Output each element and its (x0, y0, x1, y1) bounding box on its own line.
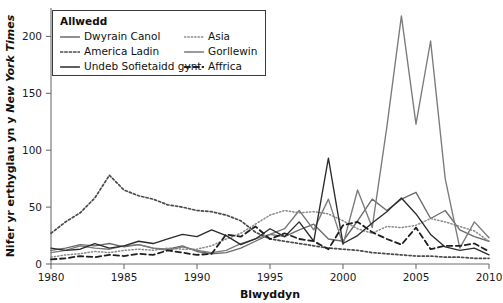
y-tick-label: 150 (22, 87, 42, 99)
x-tick-label: 1995 (257, 271, 284, 283)
legend-line-swatch (184, 62, 204, 72)
legend-entry[interactable]: Asia (184, 31, 258, 42)
y-tick-label: 0 (35, 258, 42, 270)
y-tick-label: 200 (22, 30, 42, 42)
legend-entry-label: Asia (208, 31, 230, 42)
legend-line-swatch (60, 32, 80, 42)
y-axis-title: Nifer yr erthyglau yn y New York Times (4, 14, 17, 257)
legend-title: Allwedd (60, 15, 258, 27)
legend-entry[interactable]: America Ladin (60, 46, 184, 57)
legend-line-swatch (60, 62, 80, 72)
legend-entry[interactable]: Dwyrain Canol (60, 31, 184, 42)
x-tick-label: 2010 (476, 271, 503, 283)
legend-entry-label: Affrica (208, 61, 242, 72)
legend-entry-label: Gorllewin (208, 46, 257, 57)
x-tick-label: 2000 (330, 271, 357, 283)
legend-entry[interactable]: Gorllewin (184, 46, 258, 57)
chart-legend: Allwedd Dwyrain CanolAsiaAmerica LadinGo… (52, 10, 266, 76)
legend-entry-label: America Ladin (84, 46, 159, 57)
x-tick-label: 1985 (111, 271, 138, 283)
line-chart: 0501001502001980198519901995200020052010… (0, 0, 503, 303)
legend-entry[interactable]: Affrica (184, 61, 258, 72)
legend-entry[interactable]: Undeb Sofietaidd gynt (60, 61, 184, 72)
legend-entry-label: Dwyrain Canol (84, 31, 160, 42)
x-tick-label: 2005 (403, 271, 430, 283)
legend-entries: Dwyrain CanolAsiaAmerica LadinGorllewinU… (60, 29, 258, 74)
x-tick-label: 1980 (38, 271, 65, 283)
y-tick-label: 100 (22, 144, 42, 156)
x-axis-title: Blwyddyn (240, 288, 300, 301)
y-tick-label: 50 (29, 201, 42, 213)
series-line (51, 222, 489, 260)
legend-line-swatch (184, 32, 204, 42)
legend-line-swatch (184, 47, 204, 57)
x-tick-label: 1990 (184, 271, 211, 283)
legend-line-swatch (60, 47, 80, 57)
